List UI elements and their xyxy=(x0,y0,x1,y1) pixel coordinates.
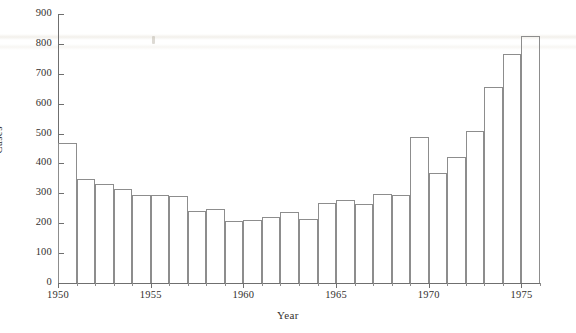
x-tick-label: 1955 xyxy=(140,289,162,300)
y-tick-label: 200 xyxy=(10,216,52,227)
bar xyxy=(299,219,318,283)
y-tick-label: 900 xyxy=(10,7,52,18)
bar xyxy=(77,179,96,283)
bar xyxy=(521,36,540,283)
y-tick-label: 700 xyxy=(10,67,52,78)
bar xyxy=(95,184,114,283)
x-minor-tick-mark xyxy=(466,283,467,286)
x-minor-tick-mark xyxy=(114,283,115,286)
x-tick-mark xyxy=(336,283,337,288)
y-tick-label: 400 xyxy=(10,156,52,167)
x-minor-tick-mark xyxy=(540,283,541,286)
x-tick-mark xyxy=(58,283,59,288)
bar xyxy=(114,189,133,283)
x-minor-tick-mark xyxy=(262,283,263,286)
x-minor-tick-mark xyxy=(169,283,170,286)
x-minor-tick-mark xyxy=(132,283,133,286)
bar xyxy=(58,143,77,283)
bar xyxy=(392,195,411,283)
bar xyxy=(262,217,281,283)
y-tick-label: 600 xyxy=(10,97,52,108)
x-tick-label: 1950 xyxy=(47,289,69,300)
x-tick-label: 1970 xyxy=(418,289,440,300)
bar xyxy=(503,54,522,283)
bar xyxy=(336,200,355,283)
x-tick-mark xyxy=(429,283,430,288)
bar xyxy=(169,196,188,283)
x-tick-label: 1960 xyxy=(232,289,254,300)
bar xyxy=(151,195,170,283)
bar xyxy=(484,87,503,283)
x-minor-tick-mark xyxy=(318,283,319,286)
x-minor-tick-mark xyxy=(484,283,485,286)
x-tick-mark xyxy=(243,283,244,288)
x-minor-tick-mark xyxy=(392,283,393,286)
bar xyxy=(206,209,225,283)
x-minor-tick-mark xyxy=(206,283,207,286)
y-tick-label: 0 xyxy=(10,276,52,287)
plot-area xyxy=(58,14,540,283)
bar xyxy=(280,212,299,283)
bar xyxy=(429,173,448,283)
x-minor-tick-mark xyxy=(280,283,281,286)
bar xyxy=(466,131,485,283)
x-minor-tick-mark xyxy=(447,283,448,286)
x-tick-mark xyxy=(151,283,152,288)
x-tick-label: 1975 xyxy=(511,289,533,300)
x-tick-mark xyxy=(521,283,522,288)
x-axis-title: Year xyxy=(0,309,576,321)
y-axis-title: Cases xyxy=(0,126,4,154)
x-minor-tick-mark xyxy=(503,283,504,286)
x-minor-tick-mark xyxy=(188,283,189,286)
bar xyxy=(225,221,244,283)
y-tick-label: 300 xyxy=(10,186,52,197)
y-tick-label: 100 xyxy=(10,246,52,257)
x-minor-tick-mark xyxy=(225,283,226,286)
bar xyxy=(447,157,466,283)
x-minor-tick-mark xyxy=(355,283,356,286)
bar-chart: 0100200300400500600700800900 19501955196… xyxy=(0,0,576,333)
x-minor-tick-mark xyxy=(95,283,96,286)
y-tick-label: 500 xyxy=(10,127,52,138)
y-tick-label: 800 xyxy=(10,37,52,48)
bar xyxy=(410,137,429,283)
x-minor-tick-mark xyxy=(410,283,411,286)
bar xyxy=(373,194,392,283)
bar xyxy=(243,220,262,283)
bar xyxy=(132,195,151,283)
bar xyxy=(318,203,337,283)
bar xyxy=(355,204,374,283)
bar xyxy=(188,211,207,283)
x-minor-tick-mark xyxy=(373,283,374,286)
x-tick-label: 1965 xyxy=(325,289,347,300)
x-minor-tick-mark xyxy=(299,283,300,286)
x-minor-tick-mark xyxy=(77,283,78,286)
